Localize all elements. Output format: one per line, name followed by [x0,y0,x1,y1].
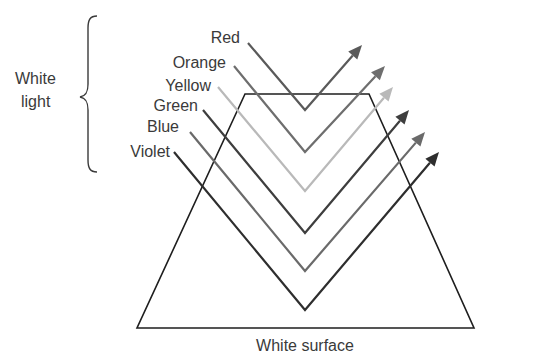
ray-label-blue: Blue [147,119,179,135]
ray-label-yellow: Yellow [165,78,211,94]
ray-label-orange: Orange [173,55,226,71]
light-reflection-diagram [0,0,534,358]
white-surface-label: White surface [205,338,405,354]
white-light-label-line2: light [21,94,50,110]
white-light-label-line1: White [15,71,56,87]
light-rays [174,43,439,310]
ray-orange [234,66,385,152]
ray-blue [190,132,425,271]
white-surface-trapezoid [137,94,474,328]
ray-green [203,110,409,233]
ray-label-violet: Violet [130,144,170,160]
ray-label-green: Green [154,98,198,114]
surface-outline [137,94,474,328]
white-light-brace-icon [80,16,97,172]
ray-red [248,43,362,110]
ray-label-red: Red [211,30,240,46]
ray-yellow [218,87,393,191]
